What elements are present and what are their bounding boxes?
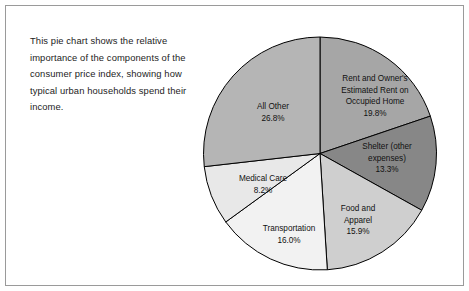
pie-chart-figure: This pie chart shows the relative import… <box>0 0 469 291</box>
pie-chart-canvas <box>0 0 469 291</box>
pie-slices <box>203 37 436 270</box>
pie-slice <box>203 37 320 167</box>
